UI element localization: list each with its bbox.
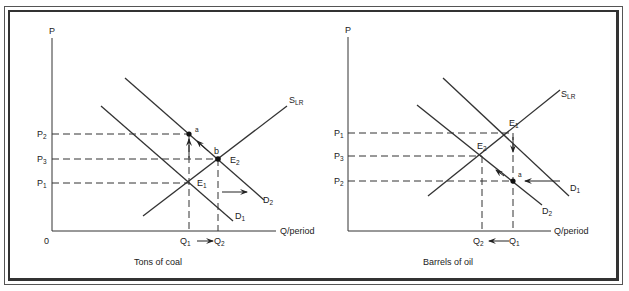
point-label-a: a bbox=[195, 126, 199, 133]
price-label-p3: P3 bbox=[37, 154, 47, 165]
point-a bbox=[510, 178, 515, 183]
guide-lines bbox=[52, 134, 218, 231]
y-axis-label: P bbox=[345, 25, 351, 35]
quantity-label-q2: Q2 bbox=[473, 236, 484, 247]
demand-label-d2: D2 bbox=[542, 206, 553, 217]
supply-label: SLR bbox=[289, 95, 304, 106]
price-label-p2: P2 bbox=[37, 129, 47, 140]
diagram-canvas: P Q/period 0 P2 P3 P1 Q1 Q2 SLR bbox=[0, 0, 629, 291]
demand-label-d1: D1 bbox=[235, 211, 246, 222]
origin-label: 0 bbox=[44, 236, 49, 246]
price-label-p3: P3 bbox=[334, 151, 344, 162]
point-label-b: b bbox=[214, 146, 219, 156]
supply-curve-slr bbox=[428, 90, 560, 196]
supply-label: SLR bbox=[561, 89, 576, 100]
quantity-label-q2: Q2 bbox=[214, 236, 225, 247]
quantity-label-q1: Q1 bbox=[509, 236, 520, 247]
demand-curve-d1 bbox=[101, 106, 233, 221]
x-axis-label: Q/period bbox=[280, 226, 315, 236]
demand-curve-d1 bbox=[443, 78, 569, 196]
arrow-along-d2-icon bbox=[197, 141, 208, 151]
x-axis-label: Q/period bbox=[554, 226, 589, 236]
price-label-p1: P1 bbox=[334, 128, 344, 139]
quantity-label-q1: Q1 bbox=[180, 236, 191, 247]
panel-oil: P Q/period P1 P3 P2 Q2 Q1 SLR D1 D2 E1 E… bbox=[334, 25, 589, 267]
price-label-p1: P1 bbox=[37, 178, 47, 189]
point-label-e1: E1 bbox=[509, 118, 519, 129]
point-a bbox=[186, 131, 191, 136]
demand-label-d1: D1 bbox=[570, 183, 581, 194]
panel-coal: P Q/period 0 P2 P3 P1 Q1 Q2 SLR bbox=[37, 26, 315, 267]
point-label-a: a bbox=[518, 171, 522, 178]
point-b-e2 bbox=[215, 156, 221, 162]
point-label-e2: E2 bbox=[230, 155, 240, 166]
panel-caption: Tons of coal bbox=[134, 257, 182, 267]
price-label-p2: P2 bbox=[334, 176, 344, 187]
demand-label-d2: D2 bbox=[263, 195, 274, 206]
point-label-e2: E2 bbox=[477, 141, 487, 152]
y-axis-label: P bbox=[49, 26, 55, 36]
panel-caption: Barrels of oil bbox=[423, 257, 473, 267]
point-label-e1: E1 bbox=[197, 178, 207, 189]
